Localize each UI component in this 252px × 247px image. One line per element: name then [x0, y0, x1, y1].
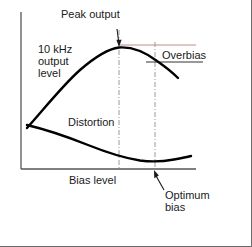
guide-lines-group: [119, 30, 155, 172]
optimum-bias-label-line2: bias: [165, 201, 186, 213]
optimum-bias-arrowhead: [154, 170, 159, 178]
bias-level-label: Bias level: [69, 174, 116, 186]
figure-frame: Peak output 10 kHz output level Overbias…: [0, 0, 252, 247]
optimum-bias-label-line1: Optimum: [165, 189, 210, 201]
output-level-label-line1: 10 kHz: [38, 43, 72, 55]
axes-group: [21, 12, 196, 169]
optimum-bias-arrow: [154, 170, 164, 190]
output-level-label-line2: output: [38, 55, 69, 67]
bias-level-graph: Peak output 10 kHz output level Overbias…: [0, 0, 252, 247]
distortion-label: Distortion: [68, 116, 114, 128]
output-level-label-line3: level: [38, 67, 61, 79]
peak-output-label: Peak output: [61, 8, 120, 20]
overbias-label: Overbias: [162, 49, 207, 61]
distortion-curve: [27, 125, 191, 161]
peak-output-arrowhead: [116, 40, 121, 47]
